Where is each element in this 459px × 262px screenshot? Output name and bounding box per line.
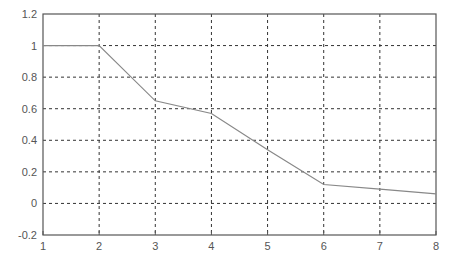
- x-tick-label: 6: [321, 240, 327, 252]
- x-axis-ticks: 12345678: [40, 231, 439, 252]
- y-tick-label: 1.2: [22, 8, 37, 20]
- x-tick-label: 8: [433, 240, 439, 252]
- grid-lines: [43, 14, 436, 235]
- y-tick-label: 0: [31, 197, 37, 209]
- y-tick-label: 0.6: [22, 103, 37, 115]
- y-tick-label: -0.2: [18, 229, 37, 241]
- y-axis-ticks: -0.200.20.40.60.811.2: [18, 8, 37, 241]
- x-tick-label: 3: [152, 240, 158, 252]
- y-tick-label: 0.2: [22, 166, 37, 178]
- line-chart: 12345678 -0.200.20.40.60.811.2: [0, 0, 459, 262]
- data-series: [43, 46, 436, 194]
- x-tick-label: 7: [377, 240, 383, 252]
- y-tick-label: 0.8: [22, 71, 37, 83]
- y-tick-label: 1: [31, 40, 37, 52]
- x-tick-label: 5: [265, 240, 271, 252]
- x-tick-label: 1: [40, 240, 46, 252]
- series-line: [43, 46, 436, 194]
- x-tick-label: 4: [208, 240, 214, 252]
- y-tick-label: 0.4: [22, 134, 37, 146]
- x-tick-label: 2: [96, 240, 102, 252]
- plot-area-frame: [43, 14, 436, 235]
